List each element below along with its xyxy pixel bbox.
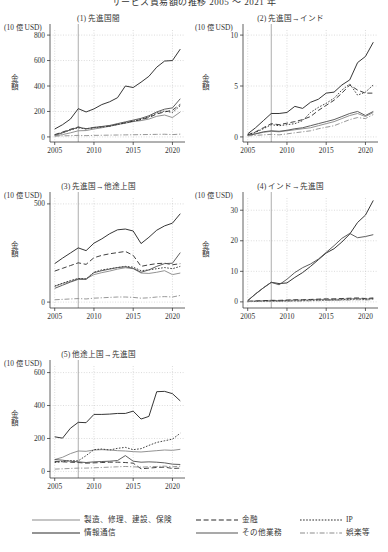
series-line [55,391,181,438]
svg-text:2020: 2020 [358,312,373,321]
plot-area: 02004006002005201020152020 [2,348,195,508]
svg-text:0: 0 [234,133,238,142]
legend-key-dotted [300,516,342,524]
series-line [248,112,374,135]
series-line [55,268,181,287]
plot-area: 05102005201020152020 [193,12,388,172]
plot-area: 01020302005201020152020 [193,180,388,338]
svg-text:2005: 2005 [240,312,255,321]
chart-panel-panel3: (3) 先進国→他途上国(10 億 USD)金額0500200520102015… [2,180,195,338]
series-line [55,99,181,135]
legend-label: その他業務 [242,529,282,537]
svg-text:2010: 2010 [280,146,295,155]
svg-text:400: 400 [34,82,45,91]
series-line [55,253,181,289]
svg-text:2010: 2010 [87,482,102,491]
series-line [55,104,181,134]
chart-panel-panel4: (4) インド→先進国(10 億 USD)金額01020302005201020… [193,180,388,338]
svg-text:2020: 2020 [358,146,373,155]
legend-label: IP [346,516,353,524]
plot-area: 02004006008002005201020152020 [2,12,195,172]
legend-label: 金融 [242,516,258,524]
svg-text:2015: 2015 [319,312,334,321]
svg-text:2015: 2015 [126,482,141,491]
svg-text:200: 200 [34,107,45,116]
legend-label: 情報通信 [84,529,116,537]
svg-text:10: 10 [231,267,239,276]
chart-panel-panel5: (5) 他途上国→先進国(10 億 USD)金額0200400600200520… [2,348,195,508]
svg-text:5: 5 [234,82,238,91]
svg-text:2020: 2020 [165,146,180,155]
series-line [55,449,181,459]
plot-area: 05002005201020152020 [2,180,195,338]
svg-text:400: 400 [34,401,45,410]
svg-text:2020: 2020 [165,482,180,491]
svg-text:800: 800 [34,31,45,40]
svg-text:600: 600 [34,368,45,377]
svg-text:2010: 2010 [87,146,102,155]
figure-title: サービス貿易額の推移 2005 ～ 2021 年 [0,0,388,8]
legend-item: 娯楽等 [300,529,370,537]
series-line [248,84,374,135]
legend-item: その他業務 [196,529,282,537]
legend-item: 金融 [196,516,258,524]
svg-text:2015: 2015 [126,146,141,155]
svg-text:2005: 2005 [47,146,62,155]
svg-text:2005: 2005 [47,312,62,321]
legend-item: 製造、修理、建設、保険 [32,516,172,524]
svg-text:2015: 2015 [126,312,141,321]
legend-label: 製造、修理、建設、保険 [84,516,172,524]
svg-text:500: 500 [34,199,45,208]
svg-text:2010: 2010 [280,312,295,321]
svg-text:2015: 2015 [319,146,334,155]
series-line [248,233,374,300]
legend-key-solid [32,516,80,524]
svg-text:0: 0 [41,298,45,307]
svg-text:2005: 2005 [240,146,255,155]
legend-item: 情報通信 [32,529,116,537]
series-line [55,456,181,465]
svg-text:0: 0 [41,467,45,476]
svg-text:20: 20 [231,236,239,245]
svg-text:2005: 2005 [47,482,62,491]
svg-text:2010: 2010 [87,312,102,321]
svg-text:0: 0 [234,297,238,306]
legend-key-dashdot [300,529,342,537]
svg-text:600: 600 [34,56,45,65]
series-line [55,214,181,264]
series-line [55,295,181,299]
chart-panel-panel1: (1) 先進国間(10 億 USD)金額02004006008002005201… [2,12,195,172]
series-line [55,433,181,462]
svg-text:10: 10 [231,31,239,40]
svg-text:0: 0 [41,133,45,142]
series-line [55,134,181,136]
legend-label: 娯楽等 [346,529,370,537]
svg-text:200: 200 [34,434,45,443]
legend-key-solid [32,529,80,537]
svg-text:30: 30 [231,206,239,215]
chart-panel-panel2: (2) 先進国→インド(10 億 USD)金額05102005201020152… [193,12,388,172]
legend-key-solid [196,529,238,537]
chart-legend: 製造、修理、建設、保険金融IP情報通信その他業務娯楽等 [0,516,388,546]
series-line [55,49,181,129]
legend-item: IP [300,516,353,524]
series-line [248,111,374,135]
legend-key-dashed [196,516,238,524]
svg-text:2020: 2020 [165,312,180,321]
figure-canvas: サービス貿易額の推移 2005 ～ 2021 年 (1) 先進国間(10 億 U… [0,0,388,552]
